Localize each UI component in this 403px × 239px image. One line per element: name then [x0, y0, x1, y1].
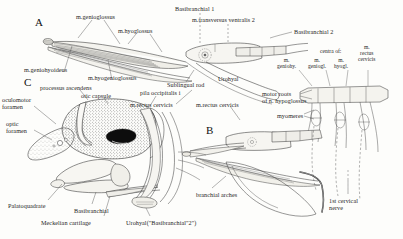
label-m-genioglossus: m.genioglossus [76, 13, 115, 20]
panel-letter-c: C [24, 76, 31, 88]
label-urohyal-c: Urohyal("Basibranchial"2") [126, 219, 196, 226]
label-m-geniogl: m. geniogl. [308, 57, 326, 69]
panel-letter-a: A [35, 16, 43, 28]
label-basibranchial-c: Basibranchial [74, 207, 109, 214]
label-sublingual-rod: Sublingual rod [167, 81, 204, 88]
label-branchial-arches: branchial arches [196, 191, 237, 198]
vertebral-centra-detail [299, 70, 388, 152]
label-basibranchial-2: Basibranchial 2 [294, 28, 333, 35]
label-m-rectus-cervicis-b: m.rectus cervicis [196, 101, 239, 108]
label-m-hyoglossus: m.hyoglossus [118, 27, 152, 34]
label-centra-of: centra of: [320, 48, 341, 54]
label-m-rectus-cervicis-right: m. rectus cervicis [358, 44, 376, 63]
panel-letter-b: B [206, 124, 213, 136]
label-1st-cervical-nerve: 1st cervical nerve [329, 197, 358, 211]
label-m-hyogl: m. hyogl. [334, 57, 348, 69]
label-oculomotor-foramen: oculomotor foramen [2, 96, 31, 110]
label-m-geniohyoideus: m.geniohyoideus [24, 66, 67, 73]
label-optic-foramen: optic foramen [6, 120, 27, 134]
label-motor-roots-hypoglossus: motor roots of n. hypoglossus [262, 90, 306, 104]
label-urohyal-a: Urohyal [218, 75, 239, 82]
label-basibranchial-1: Basibranchial 1 [175, 5, 214, 12]
label-m-hyogenioglossus: m.hyogenioglossus [88, 74, 136, 81]
label-m-rectus-cervicis-a: m.rectus cervicis [130, 101, 173, 108]
label-processus-ascendens: processus ascendens [40, 84, 92, 91]
label-otic-capsule: otic capsule [81, 92, 111, 99]
label-pila-occipitalis: pila occipitalis i [140, 89, 180, 96]
label-palatoquadrate: Palatoquadrate [8, 202, 45, 209]
label-m-transversus-ventralis-2: m.transversus ventralis 2 [192, 16, 255, 23]
panel-c-drawing [28, 99, 206, 208]
label-meckelian-cartilage: Meckelian cartilage [41, 219, 91, 226]
label-myomeres: myomeres [277, 112, 303, 119]
label-m-geniohy: m. geniohy. [277, 57, 296, 69]
figure-plate: A B C m.genioglossus m.hyoglossus Basibr… [0, 0, 403, 239]
